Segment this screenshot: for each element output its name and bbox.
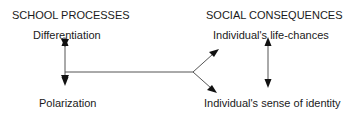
fork-down-line xyxy=(193,72,211,88)
arrowhead-down-icon xyxy=(62,77,69,86)
arrowhead-up-icon xyxy=(265,37,272,46)
arrowhead-down-icon xyxy=(265,79,272,88)
connector-lines xyxy=(0,0,351,119)
fork-up-line xyxy=(193,54,213,72)
arrowhead-up-icon xyxy=(62,37,69,46)
